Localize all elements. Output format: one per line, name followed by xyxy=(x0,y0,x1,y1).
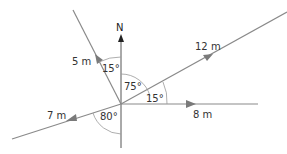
vector-5m-label: 5 m xyxy=(72,56,91,67)
vector-8m-label: 8 m xyxy=(193,109,212,120)
vector-7m-label: 7 m xyxy=(47,110,66,121)
vector-7m-arrow-icon xyxy=(66,114,77,121)
vector-8m-arrow-icon xyxy=(186,100,196,108)
angle-label-15-east: 15° xyxy=(146,93,164,104)
angle-label-75: 75° xyxy=(124,81,142,92)
angle-label-15-north: 15° xyxy=(102,63,120,74)
angle-label-80: 80° xyxy=(100,111,118,122)
vector-diagram: N 5 m 12 m 8 m 7 m 15° 75° 15° 80° xyxy=(0,0,287,154)
vector-12m-line xyxy=(121,12,287,104)
north-label: N xyxy=(116,22,123,33)
vector-12m-label: 12 m xyxy=(195,41,221,52)
north-arrow-icon xyxy=(118,34,124,42)
